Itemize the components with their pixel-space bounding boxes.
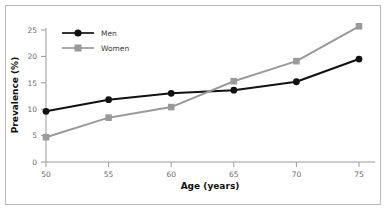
legend-women-marker-icon: [75, 45, 82, 52]
data-point-marker: [105, 96, 112, 103]
x-tick-label: 60: [166, 170, 176, 179]
data-point-marker: [356, 56, 363, 63]
x-axis-tick-labels: 505560657075: [41, 170, 364, 179]
data-point-marker: [105, 114, 112, 121]
figure-container: 0510152025 505560657075 Men Women Age (y…: [0, 0, 387, 216]
y-tick-label: 15: [27, 79, 37, 88]
x-tick-label: 65: [229, 170, 239, 179]
chart-legend: Men Women: [62, 29, 129, 53]
x-axis-title: Age (years): [181, 181, 240, 191]
y-tick-label: 5: [32, 131, 37, 140]
legend-women-label: Women: [101, 44, 129, 53]
data-point-marker: [231, 78, 238, 85]
legend-men-marker-icon: [74, 29, 81, 36]
data-point-marker: [168, 90, 175, 97]
y-axis-ticks: [41, 30, 46, 162]
series-line: [46, 59, 359, 111]
series-men: [43, 56, 363, 115]
x-tick-label: 50: [41, 170, 51, 179]
series-women: [43, 23, 363, 140]
x-tick-label: 55: [104, 170, 114, 179]
x-tick-label: 75: [354, 170, 364, 179]
data-point-marker: [230, 87, 237, 94]
data-point-marker: [356, 23, 363, 30]
y-axis-title: Prevalence (%): [10, 57, 20, 134]
data-point-marker: [43, 108, 50, 115]
y-tick-label: 0: [32, 158, 37, 167]
y-tick-label: 10: [27, 105, 37, 114]
y-tick-label: 20: [27, 52, 37, 61]
series-layer: [43, 23, 363, 140]
x-axis-ticks: [46, 162, 359, 167]
series-line: [46, 26, 359, 137]
data-point-marker: [168, 104, 175, 111]
line-chart: 0510152025 505560657075 Men Women Age (y…: [0, 0, 387, 216]
x-tick-label: 70: [292, 170, 302, 179]
data-point-marker: [293, 78, 300, 85]
data-point-marker: [43, 134, 50, 141]
data-point-marker: [293, 58, 300, 65]
legend-men-label: Men: [101, 29, 117, 38]
y-axis-tick-labels: 0510152025: [27, 26, 37, 167]
y-tick-label: 25: [27, 26, 37, 35]
